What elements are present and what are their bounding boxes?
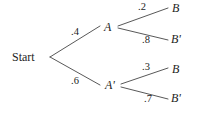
node-b-prime-via-a: B' (171, 33, 181, 45)
node-b-via-a: B (172, 2, 179, 14)
edge-label-start-a-prime: .6 (71, 76, 79, 87)
probability-tree-diagram: Start A A' B B' B B' .4 .6 .2 .8 .3 .7 (0, 0, 198, 113)
edge-label-a-prime-b: .3 (142, 62, 150, 73)
node-start: Start (12, 51, 35, 63)
edge-label-start-a: .4 (71, 27, 79, 38)
node-b-prime-via-a-prime: B' (171, 92, 181, 104)
node-b-via-a-prime: B (172, 63, 179, 75)
edge-label-a-b-prime: .8 (142, 35, 150, 46)
edge-label-a-b: .2 (138, 2, 146, 13)
edge-label-a-prime-b-prime: .7 (144, 94, 152, 105)
node-a: A (104, 21, 111, 33)
node-a-prime: A' (105, 79, 115, 91)
